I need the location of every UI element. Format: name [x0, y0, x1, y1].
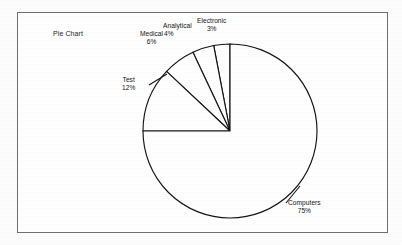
- pie-label-medical-name: Medical: [140, 30, 163, 38]
- pie-label-computers: Computers 75%: [288, 199, 321, 215]
- pie-label-analytical-name: Analytical: [163, 22, 192, 30]
- pie-label-electronic-name: Electronic: [197, 17, 226, 25]
- pie-chart-graphic: [0, 0, 402, 245]
- pie-label-analytical-percent: 4%: [163, 30, 192, 38]
- pie-label-test: Test 12%: [122, 76, 135, 92]
- pie-label-analytical: Analytical 4%: [163, 22, 192, 38]
- pie-chart-screenshot: Pie Chart Medical 6% Analytical 4% Elect…: [0, 0, 402, 245]
- pie-label-electronic: Electronic 3%: [197, 17, 226, 33]
- pie-label-medical-percent: 6%: [140, 38, 163, 46]
- pie-label-computers-percent: 75%: [288, 207, 321, 215]
- pie-label-computers-name: Computers: [288, 199, 321, 207]
- pie-label-medical: Medical 6%: [140, 30, 163, 46]
- pie-label-test-percent: 12%: [122, 84, 135, 92]
- pie-label-test-name: Test: [122, 76, 135, 84]
- pie-label-electronic-percent: 3%: [197, 25, 226, 33]
